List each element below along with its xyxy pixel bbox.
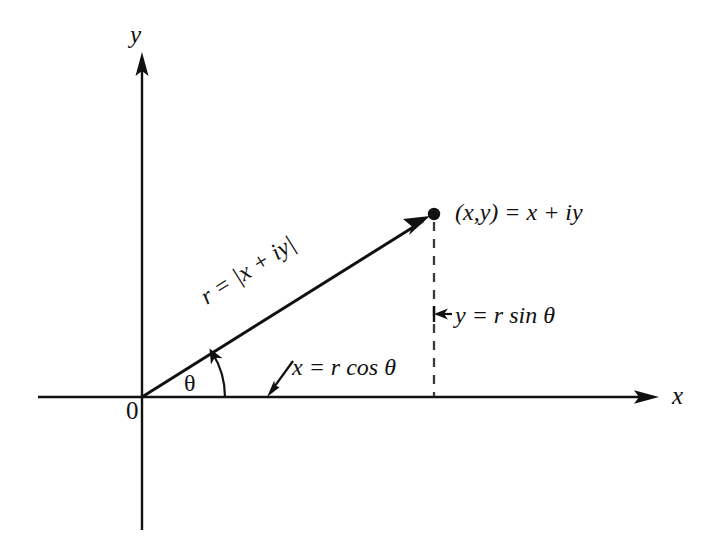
polar-complex-number-figure: y x 0 θ (x,y) = x + iy y = r sin θ x = r… — [0, 0, 712, 558]
y-projection-label: y = r sin θ — [455, 303, 555, 327]
origin-label: 0 — [126, 398, 139, 423]
x-projection-label: x = r cos θ — [292, 355, 396, 379]
x-axis-label: x — [672, 383, 683, 408]
complex-point-marker — [428, 208, 440, 220]
figure-canvas — [0, 0, 712, 558]
angle-theta-label: θ — [184, 371, 196, 395]
complex-point-label: (x,y) = x + iy — [455, 200, 583, 224]
angle-arc — [212, 353, 225, 397]
y-axis-label: y — [130, 22, 141, 47]
